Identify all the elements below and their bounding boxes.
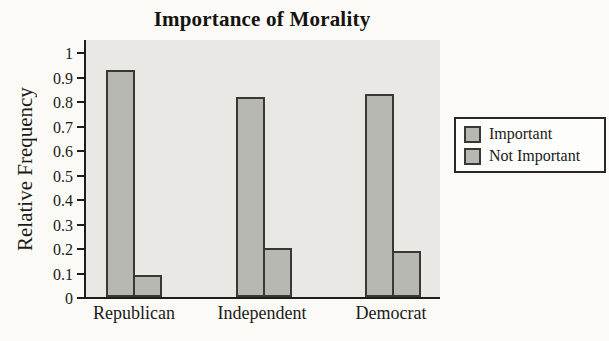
ytick-mark-0.2 [77,248,84,250]
chart-figure: Importance of Morality Relative Frequenc… [0,0,609,341]
ytick-label-0.1: 0.1 [33,266,73,284]
ytick-label-0.8: 0.8 [33,94,73,112]
legend: ImportantNot Important [454,117,606,173]
ytick-mark-0.7 [77,126,84,128]
legend-item-important: Important [464,125,596,143]
ytick-mark-0 [77,297,84,299]
bar-pair-democrat [365,94,421,297]
ytick-mark-1 [77,52,84,54]
bar-pair-republican [106,70,162,297]
legend-label-important: Important [489,125,552,143]
ytick-mark-0.9 [77,77,84,79]
bar-important-independent [236,97,265,297]
bar-important-republican [106,70,135,297]
ytick-label-1: 1 [33,45,73,63]
ytick-label-0.4: 0.4 [33,192,73,210]
legend-swatch-icon-not-important [464,148,481,165]
y-axis: 00.10.20.30.40.50.60.70.80.91 [0,40,84,299]
ytick-label-0.9: 0.9 [33,70,73,88]
ytick-mark-0.8 [77,101,84,103]
ytick-mark-0.4 [77,199,84,201]
bar-important-democrat [365,94,394,297]
bars-row [86,70,440,297]
bar-not-important-democrat [392,251,421,297]
ytick-mark-0.5 [77,175,84,177]
bar-pair-independent [236,97,292,297]
x-label-democrat: Democrat [321,303,461,324]
chart-title: Importance of Morality [64,7,460,32]
ytick-label-0.7: 0.7 [33,119,73,137]
bar-not-important-independent [263,248,292,297]
x-label-republican: Republican [64,303,204,324]
plot-area [84,40,440,299]
ytick-label-0.2: 0.2 [33,241,73,259]
ytick-label-0.6: 0.6 [33,143,73,161]
bar-not-important-republican [133,275,162,297]
ytick-mark-0.1 [77,273,84,275]
ytick-mark-0.3 [77,224,84,226]
legend-swatch-icon-important [464,126,481,143]
legend-label-not-important: Not Important [489,147,580,165]
x-label-independent: Independent [192,303,332,324]
ytick-label-0.5: 0.5 [33,168,73,186]
ytick-mark-0.6 [77,150,84,152]
legend-item-not-important: Not Important [464,147,596,165]
ytick-label-0.3: 0.3 [33,217,73,235]
